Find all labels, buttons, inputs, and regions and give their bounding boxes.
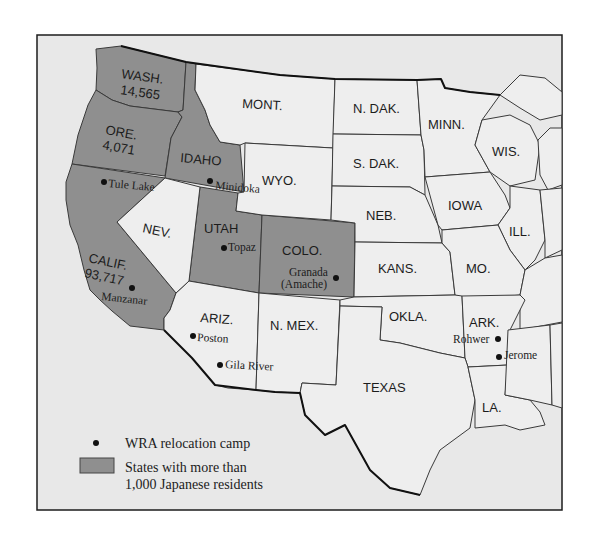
label-ark: ARK. [469, 315, 499, 330]
legend-camp-label: WRA relocation camp [125, 436, 250, 451]
label-iowa: IOWA [448, 198, 483, 213]
label-wis: WIS. [492, 144, 520, 159]
label-ariz: ARIZ. [200, 310, 234, 327]
label-kans: KANS. [378, 261, 417, 276]
camp-dot-minidoka [207, 178, 213, 184]
camp-dot-gila-river [217, 362, 223, 368]
camp-label-rohwer: Rohwer [453, 333, 490, 345]
label-mont: MONT. [242, 96, 283, 113]
label-texas: TEXAS [363, 380, 406, 395]
label-nmex: N. MEX. [270, 318, 318, 333]
label-sdak: S. DAK. [353, 156, 399, 171]
label-minn: MINN. [428, 117, 465, 132]
state-mississippi [505, 325, 552, 405]
legend-state-swatch [80, 458, 114, 473]
label-neb: NEB. [366, 208, 396, 223]
camp-dot-jerome [496, 354, 502, 360]
label-okla: OKLA. [389, 309, 427, 324]
camp-label-jerome: Jerome [504, 349, 537, 361]
camp-label-topaz: Topaz [228, 241, 256, 254]
camp-dot-topaz [221, 245, 227, 251]
camp-label-granada: Granada [289, 266, 328, 278]
relocation-camps-map: WASH. 14,565 ORE. 4,071 IDAHO MONT. WYO.… [0, 0, 591, 542]
camp-dot-granada [333, 275, 339, 281]
label-la: LA. [482, 400, 502, 415]
legend-state-label-line1: States with more than [125, 460, 247, 475]
camp-label-amache: (Amache) [281, 278, 327, 291]
camp-dot-tule-lake [101, 179, 107, 185]
camp-label-gila-river: Gila River [225, 358, 274, 373]
label-ndak: N. DAK. [353, 101, 400, 116]
camp-dot-rohwer [495, 336, 501, 342]
label-ill: ILL. [509, 224, 531, 239]
camp-dot-manzanar [129, 285, 135, 291]
camp-dot-poston [190, 333, 196, 339]
legend-camp-icon [93, 440, 99, 446]
label-wyo: WYO. [262, 173, 297, 188]
label-colo: COLO. [282, 243, 322, 258]
state-new-mexico [256, 293, 340, 393]
camp-label-poston: Poston [197, 331, 229, 345]
legend-state-label-line2: 1,000 Japanese residents [125, 477, 263, 492]
label-mo: MO. [466, 261, 491, 276]
label-utah: UTAH [204, 221, 238, 236]
state-alabama [550, 323, 562, 408]
